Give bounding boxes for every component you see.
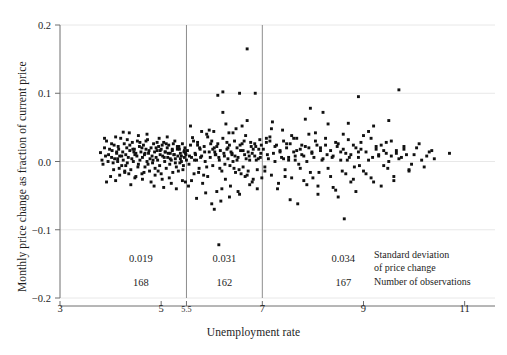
data-point bbox=[390, 140, 393, 143]
data-point bbox=[178, 148, 181, 151]
data-point bbox=[317, 185, 320, 188]
data-point bbox=[267, 157, 270, 160]
data-point bbox=[279, 151, 282, 154]
data-point bbox=[344, 152, 347, 155]
data-point bbox=[158, 164, 161, 167]
data-point bbox=[372, 181, 375, 184]
data-point bbox=[395, 149, 398, 152]
data-point bbox=[326, 153, 329, 156]
data-point bbox=[161, 144, 164, 147]
data-point bbox=[103, 146, 106, 149]
data-point bbox=[102, 163, 105, 166]
data-point bbox=[171, 148, 174, 151]
data-point bbox=[430, 149, 433, 152]
data-point bbox=[233, 167, 236, 170]
data-point bbox=[175, 166, 178, 169]
data-point bbox=[187, 185, 190, 188]
data-point bbox=[105, 140, 108, 143]
data-point bbox=[224, 178, 227, 181]
data-point bbox=[304, 145, 307, 148]
data-point bbox=[289, 142, 292, 145]
data-point bbox=[201, 182, 204, 185]
data-point bbox=[202, 174, 205, 177]
data-point bbox=[392, 175, 395, 178]
data-point bbox=[209, 156, 212, 159]
data-point bbox=[147, 152, 150, 155]
data-point bbox=[397, 88, 400, 91]
data-point bbox=[341, 170, 344, 173]
data-point bbox=[183, 156, 186, 159]
data-point bbox=[287, 159, 290, 162]
data-point bbox=[392, 179, 395, 182]
data-point bbox=[198, 146, 201, 149]
data-point bbox=[260, 144, 263, 147]
data-point bbox=[254, 145, 257, 148]
data-point bbox=[228, 144, 231, 147]
data-point bbox=[172, 142, 175, 145]
data-point bbox=[217, 243, 220, 246]
data-point bbox=[146, 160, 149, 163]
data-point bbox=[238, 168, 241, 171]
x-axis-title: Unemployment rate bbox=[0, 326, 507, 338]
data-point bbox=[251, 152, 254, 155]
data-point bbox=[299, 167, 302, 170]
data-point bbox=[118, 167, 121, 170]
data-point bbox=[115, 151, 118, 154]
std-dev-value-2: 0.034 bbox=[331, 253, 355, 264]
data-point bbox=[231, 153, 234, 156]
data-point bbox=[211, 148, 214, 151]
data-point bbox=[113, 157, 116, 160]
data-point bbox=[107, 153, 110, 156]
data-point bbox=[189, 144, 192, 147]
data-point bbox=[223, 155, 226, 158]
data-point bbox=[208, 151, 211, 154]
data-point bbox=[420, 159, 423, 162]
data-point bbox=[158, 137, 161, 140]
data-point bbox=[236, 159, 239, 162]
data-point bbox=[223, 163, 226, 166]
data-point bbox=[263, 166, 266, 169]
data-point bbox=[157, 170, 160, 173]
data-point bbox=[220, 187, 223, 190]
data-point bbox=[385, 141, 388, 144]
data-point bbox=[282, 140, 285, 143]
data-point bbox=[119, 137, 122, 140]
data-point bbox=[179, 152, 182, 155]
data-point bbox=[233, 140, 236, 143]
data-point bbox=[176, 145, 179, 148]
data-point bbox=[250, 145, 253, 148]
data-point bbox=[120, 155, 123, 158]
data-point bbox=[156, 141, 159, 144]
data-point bbox=[262, 148, 265, 151]
data-point bbox=[138, 145, 141, 148]
data-point bbox=[277, 182, 280, 185]
data-point bbox=[272, 152, 275, 155]
data-point bbox=[110, 142, 113, 145]
data-point bbox=[347, 122, 350, 125]
data-point bbox=[319, 146, 322, 149]
data-point bbox=[153, 151, 156, 154]
data-point bbox=[270, 127, 273, 130]
data-point bbox=[331, 156, 334, 159]
data-point bbox=[310, 151, 313, 154]
data-point bbox=[229, 185, 232, 188]
data-point bbox=[289, 198, 292, 201]
data-point bbox=[292, 151, 295, 154]
data-point bbox=[284, 175, 287, 178]
data-point bbox=[239, 144, 242, 147]
data-point bbox=[246, 119, 249, 122]
data-point bbox=[243, 153, 246, 156]
data-point bbox=[295, 137, 298, 140]
data-point bbox=[155, 156, 158, 159]
data-point bbox=[147, 163, 150, 166]
data-point bbox=[130, 157, 133, 160]
data-point bbox=[184, 181, 187, 184]
data-point bbox=[213, 208, 216, 211]
plot-canvas bbox=[0, 0, 507, 355]
data-point bbox=[165, 167, 168, 170]
data-point bbox=[105, 181, 108, 184]
data-point bbox=[212, 130, 215, 133]
data-point bbox=[243, 140, 246, 143]
data-point bbox=[161, 178, 164, 181]
data-point bbox=[423, 166, 426, 169]
